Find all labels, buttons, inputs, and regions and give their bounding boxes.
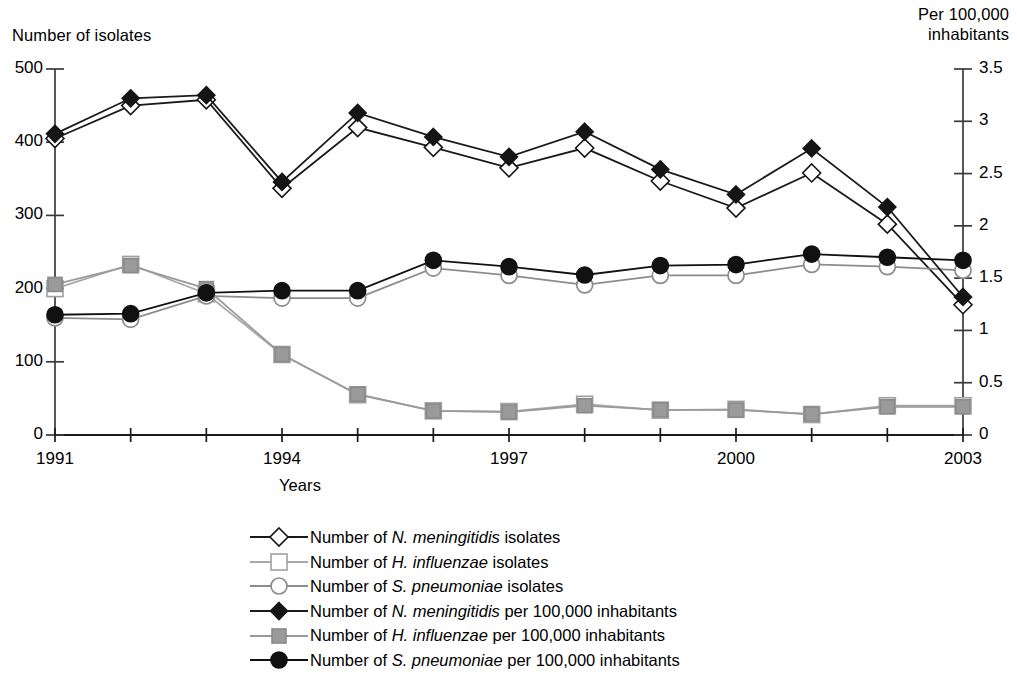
data-point-marker: [425, 128, 442, 145]
legend-item-1: Number of H. influenzae isolates: [248, 550, 948, 575]
y-tick-label-right: 2.5: [979, 163, 1017, 183]
y-tick-label-left: 500: [0, 58, 43, 78]
legend-key-filled-square-icon: [248, 625, 310, 647]
data-point-marker: [501, 259, 517, 275]
legend-item-5: Number of S. pneumoniae per 100,000 inha…: [248, 648, 948, 673]
legend-item-4: Number of H. influenzae per 100,000 inha…: [248, 623, 948, 648]
legend-key-open-square-icon: [248, 551, 310, 573]
series-5: [47, 246, 971, 323]
y-tick-label-right: 1: [979, 319, 1017, 339]
data-point-marker: [803, 140, 820, 157]
legend-label-prefix: Number of: [310, 553, 392, 571]
data-point-marker: [501, 148, 518, 165]
data-point-marker: [270, 528, 288, 546]
legend-label-prefix: Number of: [310, 651, 392, 669]
x-tick-label: 1994: [247, 449, 317, 469]
legend-label-2: Number of S. pneumoniae isolates: [310, 578, 563, 595]
legend-label-suffix: isolates: [500, 528, 561, 546]
legend-label-5: Number of S. pneumoniae per 100,000 inha…: [310, 652, 680, 669]
legend-item-2: Number of S. pneumoniae isolates: [248, 574, 948, 599]
data-point-marker: [274, 283, 290, 299]
data-point-marker: [955, 252, 971, 268]
data-point-marker: [275, 347, 289, 361]
data-point-marker: [48, 277, 62, 291]
legend-label-organism: H. influenzae: [392, 626, 488, 644]
data-point-marker: [425, 252, 441, 268]
legend-key-open-diamond-icon: [248, 526, 310, 548]
legend-label-prefix: Number of: [310, 626, 392, 644]
data-point-marker: [198, 285, 214, 301]
y-tick-label-left: 200: [0, 278, 43, 298]
y-tick-label-right: 3.5: [979, 58, 1017, 78]
y-tick-label-left: 100: [0, 351, 43, 371]
data-point-marker: [653, 403, 667, 417]
data-point-marker: [728, 257, 744, 273]
legend-item-0: Number of N. meningitidis isolates: [248, 525, 948, 550]
legend-label-suffix: isolates: [488, 553, 549, 571]
x-tick-label: 2000: [701, 449, 771, 469]
legend-label-suffix: per 100,000 inhabitants: [500, 602, 677, 620]
legend-label-suffix: per 100,000 inhabitants: [503, 651, 680, 669]
data-point-marker: [350, 283, 366, 299]
legend-label-organism: N. meningitidis: [392, 528, 500, 546]
legend-label-prefix: Number of: [310, 528, 392, 546]
data-point-marker: [880, 400, 894, 414]
data-point-marker: [271, 652, 287, 668]
data-point-marker: [124, 259, 138, 273]
y-tick-label-left: 0: [0, 424, 43, 444]
legend-label-suffix: isolates: [503, 577, 564, 595]
data-point-marker: [47, 307, 63, 323]
data-point-marker: [956, 400, 970, 414]
chart-legend: Number of N. meningitidis isolatesNumber…: [248, 525, 948, 673]
chart-figure: Number of isolates Per 100,000inhabitant…: [0, 0, 1017, 689]
data-point-marker: [271, 554, 287, 570]
series-line: [55, 264, 963, 414]
data-point-marker: [426, 404, 440, 418]
legend-key-filled-diamond-icon: [248, 600, 310, 622]
legend-label-4: Number of H. influenzae per 100,000 inha…: [310, 627, 665, 644]
legend-label-organism: S. pneumoniae: [392, 577, 503, 595]
data-point-marker: [652, 161, 669, 178]
axis-lines: [55, 69, 963, 435]
legend-label-organism: S. pneumoniae: [392, 651, 503, 669]
legend-key-filled-circle-icon: [248, 649, 310, 671]
legend-label-prefix: Number of: [310, 602, 392, 620]
y-tick-label-right: 2: [979, 215, 1017, 235]
legend-item-3: Number of N. meningitidis per 100,000 in…: [248, 599, 948, 624]
y-tick-label-right: 3: [979, 110, 1017, 130]
data-point-marker: [805, 407, 819, 421]
data-point-marker: [578, 399, 592, 413]
y-tick-label-right: 0: [979, 424, 1017, 444]
legend-label-suffix: per 100,000 inhabitants: [488, 626, 665, 644]
legend-key-open-circle-icon: [248, 575, 310, 597]
data-point-marker: [652, 258, 668, 274]
y-tick-label-left: 400: [0, 131, 43, 151]
data-point-marker: [272, 629, 286, 643]
data-point-marker: [803, 164, 821, 182]
data-point-marker: [576, 123, 593, 140]
data-point-marker: [729, 403, 743, 417]
legend-label-prefix: Number of: [310, 577, 392, 595]
data-point-marker: [271, 603, 288, 620]
data-point-marker: [879, 249, 895, 265]
legend-label-organism: N. meningitidis: [392, 602, 500, 620]
data-point-marker: [502, 405, 516, 419]
data-point-marker: [728, 186, 745, 203]
data-point-marker: [577, 267, 593, 283]
legend-label-organism: H. influenzae: [392, 553, 488, 571]
x-tick-label: 1991: [20, 449, 90, 469]
data-point-marker: [804, 246, 820, 262]
x-tick-label: 2003: [928, 449, 998, 469]
y-tick-label-right: 0.5: [979, 372, 1017, 392]
data-point-marker: [576, 139, 594, 157]
data-point-marker: [271, 578, 287, 594]
legend-label-3: Number of N. meningitidis per 100,000 in…: [310, 603, 677, 620]
y-tick-label-left: 300: [0, 204, 43, 224]
data-point-marker: [351, 387, 365, 401]
data-point-marker: [123, 306, 139, 322]
legend-label-0: Number of N. meningitidis isolates: [310, 529, 560, 546]
legend-label-1: Number of H. influenzae isolates: [310, 554, 548, 571]
x-tick-label: 1997: [474, 449, 544, 469]
y-tick-label-right: 1.5: [979, 267, 1017, 287]
